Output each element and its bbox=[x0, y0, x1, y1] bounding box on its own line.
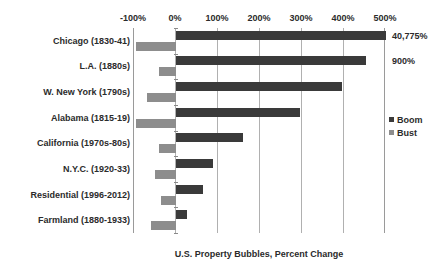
axis-tickmark bbox=[174, 105, 178, 106]
axis-tickmark bbox=[174, 54, 178, 55]
category-label: N.Y.C. (1920-33) bbox=[0, 164, 130, 174]
bar-bust bbox=[155, 170, 176, 179]
bar-chart: -100% 0% 100% 200% 300% 400% 500% Chicag… bbox=[0, 0, 435, 268]
plot-area bbox=[133, 28, 385, 233]
bar-bust bbox=[159, 144, 176, 153]
bar-bust bbox=[151, 221, 176, 230]
x-tick-4: 300% bbox=[289, 13, 312, 23]
category-label: W. New York (1790s) bbox=[0, 87, 130, 97]
axis-tickmark bbox=[174, 233, 178, 234]
bar-bust bbox=[159, 67, 176, 76]
axis-tickmark bbox=[174, 79, 178, 80]
bar-bust bbox=[147, 93, 176, 102]
axis-tickmark bbox=[174, 131, 178, 132]
data-label: 40,775% bbox=[392, 31, 428, 41]
category-label: Chicago (1830-41) bbox=[0, 36, 130, 46]
x-tick-3: 200% bbox=[247, 13, 270, 23]
legend-item-boom: Boom bbox=[389, 113, 423, 126]
legend-item-bust: Bust bbox=[389, 126, 423, 139]
x-axis-title: U.S. Property Bubbles, Percent Change bbox=[133, 249, 385, 259]
category-label: Residential (1996-2012) bbox=[0, 190, 130, 200]
category-label: California (1970s-80s) bbox=[0, 138, 130, 148]
bar-boom bbox=[176, 82, 342, 91]
chart-legend: Boom Bust bbox=[389, 113, 423, 139]
axis-tickmark bbox=[174, 182, 178, 183]
legend-swatch-boom bbox=[389, 117, 394, 122]
x-tick-0: -100% bbox=[120, 13, 146, 23]
bar-boom bbox=[176, 159, 213, 168]
legend-label-bust: Bust bbox=[397, 128, 417, 138]
axis-tickmark bbox=[174, 207, 178, 208]
x-tick-1: 0% bbox=[168, 13, 181, 23]
legend-label-boom: Boom bbox=[397, 115, 423, 125]
bar-bust bbox=[161, 196, 176, 205]
x-tick-2: 100% bbox=[205, 13, 228, 23]
x-tick-5: 400% bbox=[331, 13, 354, 23]
x-tick-6: 500% bbox=[373, 13, 396, 23]
bar-bust bbox=[136, 42, 176, 51]
category-label: Alabama (1815-19) bbox=[0, 113, 130, 123]
legend-swatch-bust bbox=[389, 130, 394, 135]
bar-boom bbox=[176, 133, 243, 142]
bar-boom bbox=[176, 108, 300, 117]
bar-boom bbox=[176, 56, 366, 65]
axis-tickmark bbox=[174, 28, 178, 29]
bar-bust bbox=[136, 119, 176, 128]
bar-boom bbox=[176, 210, 187, 219]
category-label: Farmland (1880-1933) bbox=[0, 215, 130, 225]
axis-tickmark bbox=[174, 156, 178, 157]
y-axis-category-labels: Chicago (1830-41)L.A. (1880s)W. New York… bbox=[0, 28, 130, 233]
data-label: 900% bbox=[392, 56, 415, 66]
bar-boom bbox=[176, 31, 386, 40]
category-label: L.A. (1880s) bbox=[0, 61, 130, 71]
bar-boom bbox=[176, 185, 203, 194]
